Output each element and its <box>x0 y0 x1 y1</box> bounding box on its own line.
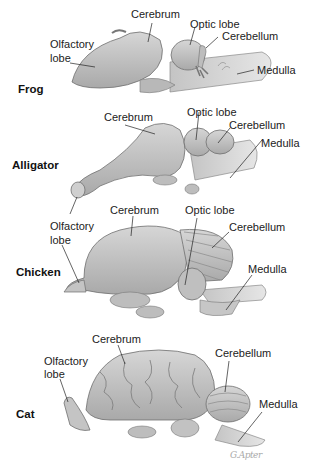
label-alligator-cerebellum: Cerebellum <box>229 119 285 132</box>
label-cat-medulla: Medulla <box>259 398 298 411</box>
label-frog-olfactory-line2: lobe <box>50 52 71 65</box>
label-alligator-olfactory-line2: lobe <box>50 234 71 247</box>
label-chicken-optic-lobe: Optic lobe <box>185 204 235 217</box>
label-alligator-optic-lobe: Optic lobe <box>187 106 237 119</box>
label-cat-olfactory-line1: Olfactory <box>44 355 88 368</box>
chicken-brain <box>64 226 266 318</box>
label-alligator-medulla: Medulla <box>261 137 300 150</box>
label-alligator-cerebrum: Cerebrum <box>104 111 153 124</box>
cat-brain <box>64 350 265 446</box>
label-cat-olfactory-line2: lobe <box>44 368 65 381</box>
label-frog-olfactory-line1: Olfactory <box>50 38 94 51</box>
animal-name-frog: Frog <box>18 83 44 95</box>
animal-name-cat: Cat <box>16 408 35 420</box>
animal-name-chicken: Chicken <box>16 266 61 278</box>
label-frog-cerebellum: Cerebellum <box>222 30 278 43</box>
alligator-brain <box>71 123 257 198</box>
label-frog-cerebrum: Cerebrum <box>131 8 180 21</box>
label-cat-cerebellum: Cerebellum <box>215 347 271 360</box>
label-chicken-medulla: Medulla <box>248 263 287 276</box>
label-alligator-olfactory-line1: Olfactory <box>50 220 94 233</box>
label-chicken-cerebrum: Cerebrum <box>110 204 159 217</box>
label-chicken-cerebellum: Cerebellum <box>229 221 285 234</box>
artist-signature: G.Apter <box>230 450 262 460</box>
label-frog-medulla: Medulla <box>257 64 296 77</box>
animal-name-alligator: Alligator <box>12 159 59 171</box>
label-cat-cerebrum: Cerebrum <box>92 333 141 346</box>
